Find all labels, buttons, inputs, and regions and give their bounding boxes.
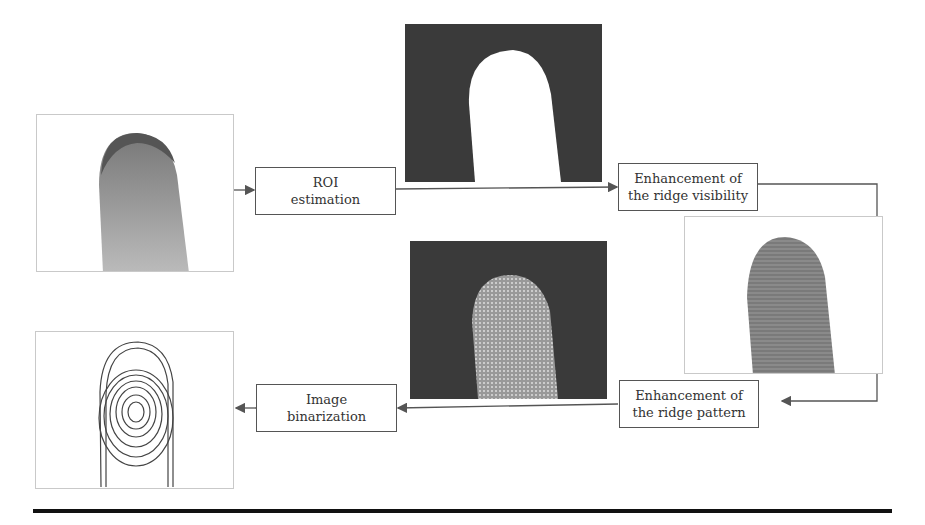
finger-ridges-icon — [685, 217, 883, 374]
finger-pattern-icon — [410, 241, 607, 399]
binary-fingerprint-icon — [36, 332, 234, 489]
visibility-label-line1: Enhancement of — [634, 170, 742, 187]
roi-estimation-box: ROI estimation — [255, 167, 396, 215]
bottom-rule — [33, 509, 892, 513]
finger-mask-icon — [405, 24, 602, 182]
binarization-label-line1: Image — [306, 391, 347, 408]
visibility-label-line2: the ridge visibility — [628, 187, 748, 204]
pattern-label-line1: Enhancement of — [635, 387, 743, 404]
ridge-visibility-image — [684, 216, 883, 374]
roi-mask-image — [405, 24, 602, 182]
binarized-fingerprint-image — [35, 331, 234, 489]
roi-label-line1: ROI — [313, 174, 339, 191]
input-finger-image — [36, 114, 234, 272]
ridge-pattern-image — [410, 241, 607, 399]
image-binarization-box: Image binarization — [256, 384, 397, 432]
binarization-label-line2: binarization — [287, 408, 366, 425]
pattern-label-line2: the ridge pattern — [632, 404, 745, 421]
finger-photo-icon — [37, 115, 234, 272]
roi-label-line2: estimation — [291, 191, 360, 208]
ridge-visibility-box: Enhancement of the ridge visibility — [618, 163, 758, 211]
ridge-pattern-box: Enhancement of the ridge pattern — [619, 380, 759, 428]
